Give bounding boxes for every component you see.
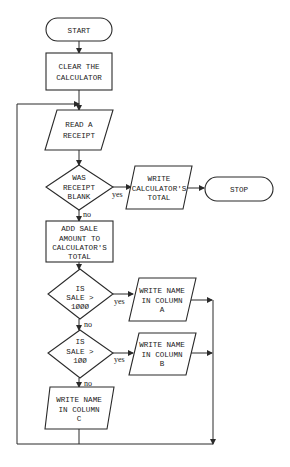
write-c-line-3: C [77, 415, 82, 423]
write-total-line-2: CALCULATOR'S [132, 185, 187, 193]
node-gt1000: IS SALE > 1ØØØ yes no [48, 269, 125, 329]
read-line-1: READ A [65, 121, 93, 129]
node-write-a: WRITE NAME IN COLUMN A [129, 278, 196, 321]
node-gt100: IS SALE > 1ØØ yes no [48, 330, 125, 388]
blank-no-label: no [83, 210, 91, 219]
blank-yes-label: yes [112, 190, 123, 199]
write-c-line-1: WRITE NAME [56, 396, 102, 404]
node-stop: STOP [205, 177, 273, 201]
process-clear [46, 53, 112, 90]
blank-line-1: WAS [72, 174, 86, 182]
write-a-line-1: WRITE NAME [139, 287, 185, 295]
write-total-line-1: WRITE [148, 175, 171, 183]
gt100-line-2: SALE > [66, 348, 94, 356]
clear-line-1: CLEAR THE [58, 63, 99, 71]
clear-line-2: CALCULATOR [56, 74, 102, 82]
gt100-line-1: IS [75, 338, 85, 346]
add-line-2: AMOUNT TO [59, 235, 100, 243]
gt1000-yes-label: yes [114, 297, 125, 306]
write-a-line-2: IN COLUMN [141, 297, 182, 305]
gt1000-line-3: 1ØØØ [71, 303, 90, 311]
write-b-line-1: WRITE NAME [139, 341, 185, 349]
stop-label: STOP [230, 186, 249, 194]
blank-line-2: RECEIPT [63, 184, 95, 192]
read-line-2: RECEIPT [63, 132, 95, 140]
start-label: START [68, 27, 91, 35]
node-start: START [46, 18, 112, 41]
add-line-1: ADD SALE [61, 225, 98, 233]
add-line-3: CALCULATOR'S [52, 244, 107, 252]
io-read [45, 110, 113, 150]
gt100-yes-label: yes [114, 355, 125, 364]
write-c-line-2: IN COLUMN [58, 406, 99, 414]
gt1000-line-2: SALE > [66, 294, 94, 302]
node-clear: CLEAR THE CALCULATOR [46, 53, 112, 90]
node-write-total: WRITE CALCULATOR'S TOTAL [126, 166, 192, 209]
node-write-b: WRITE NAME IN COLUMN B [129, 333, 196, 375]
node-write-c: WRITE NAME IN COLUMN C [45, 387, 114, 429]
gt100-line-3: 1ØØ [73, 357, 87, 365]
write-b-line-2: IN COLUMN [141, 351, 182, 359]
write-b-line-3: B [160, 360, 165, 368]
flowchart: START CLEAR THE CALCULATOR READ A RECEIP… [0, 0, 290, 467]
write-a-line-3: A [160, 306, 165, 314]
write-total-line-3: TOTAL [148, 194, 171, 202]
gt1000-line-1: IS [75, 285, 85, 293]
node-add: ADD SALE AMOUNT TO CALCULATOR'S TOTAL [46, 221, 113, 262]
node-read: READ A RECEIPT [45, 110, 113, 150]
blank-line-3: BLANK [68, 193, 91, 201]
node-blank: WAS RECEIPT BLANK yes no [46, 165, 123, 219]
gt1000-no-label: no [84, 320, 92, 329]
add-line-4: TOTAL [68, 253, 91, 261]
